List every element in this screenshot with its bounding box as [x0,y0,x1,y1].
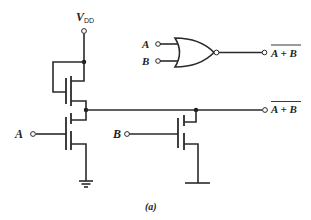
nor-input-a-terminal-icon [156,42,161,47]
load-transistor [53,62,86,110]
input-a-label: A [14,127,23,141]
output-terminal-icon [263,108,268,113]
nor-input-b-terminal-icon [156,59,161,64]
input-a-terminal[interactable] [31,132,36,137]
vdd-supply: VDD [76,10,94,62]
input-b-label: B [112,127,121,141]
or-body-icon [175,38,214,67]
nor-gate-symbol: A B A + B [141,38,301,67]
vdd-terminal-icon [82,29,87,34]
inversion-bubble-icon [214,50,219,55]
nor-output-terminal-icon [262,50,267,55]
driver-transistor-a [36,110,86,181]
svg-text:A + B: A + B [270,103,297,115]
vdd-label: VDD [76,10,94,24]
nor-circuit-diagram: VDD A + B A [0,0,311,220]
input-b-terminal[interactable] [125,132,130,137]
output-label: A + B [270,102,301,116]
figure-caption: (a) [145,201,157,213]
driver-transistor-b [129,110,210,183]
nor-output-label: A + B [270,47,297,59]
nor-input-b-label: B [141,55,149,67]
ground-icon [79,181,93,187]
nor-input-a-label: A [141,38,149,50]
